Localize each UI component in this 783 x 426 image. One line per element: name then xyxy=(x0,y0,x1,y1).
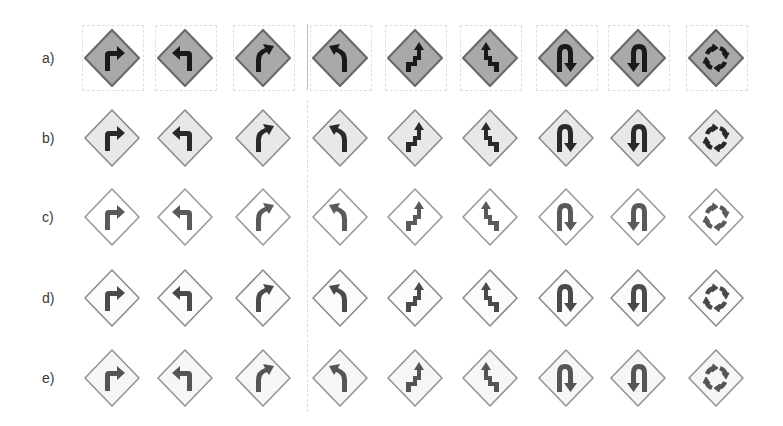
turn-right-arrow-icon xyxy=(81,107,143,169)
u-turn-left-sign xyxy=(607,267,669,329)
u-turn-right-icon xyxy=(535,267,597,329)
roundabout-icon xyxy=(685,267,747,329)
turn-right-arrow-icon xyxy=(81,347,143,409)
row-label: b) xyxy=(42,130,66,146)
column-divider-faint xyxy=(307,100,308,412)
row-label: e) xyxy=(42,370,66,386)
reverse-turn-left-icon xyxy=(459,107,521,169)
reverse-turn-left-icon xyxy=(459,347,521,409)
roundabout-icon xyxy=(685,107,747,169)
turn-left-sign xyxy=(154,186,216,248)
curve-right-sign xyxy=(232,27,294,89)
u-turn-left-icon xyxy=(607,186,669,248)
row-label: a) xyxy=(42,50,66,66)
turn-left-sign xyxy=(154,347,216,409)
u-turn-right-icon xyxy=(535,347,597,409)
reverse-turn-right-sign xyxy=(384,267,446,329)
reverse-turn-right-icon xyxy=(384,27,446,89)
turn-right-sign xyxy=(81,267,143,329)
reverse-turn-left-sign xyxy=(459,107,521,169)
turn-right-sign xyxy=(81,347,143,409)
turn-left-arrow-icon xyxy=(154,267,216,329)
u-turn-right-sign xyxy=(535,347,597,409)
u-turn-left-icon xyxy=(607,107,669,169)
u-turn-left-icon xyxy=(607,267,669,329)
turn-left-arrow-icon xyxy=(154,27,216,89)
u-turn-left-sign xyxy=(607,186,669,248)
reverse-turn-right-sign xyxy=(384,107,446,169)
row-label: d) xyxy=(42,290,66,306)
u-turn-right-icon xyxy=(535,27,597,89)
roundabout-sign xyxy=(685,27,747,89)
turn-right-arrow-icon xyxy=(81,267,143,329)
u-turn-right-sign xyxy=(535,267,597,329)
row-label: c) xyxy=(42,209,66,225)
curve-left-arrow-icon xyxy=(309,267,371,329)
curve-right-arrow-icon xyxy=(232,27,294,89)
turn-right-sign xyxy=(81,107,143,169)
reverse-turn-left-sign xyxy=(459,267,521,329)
curve-left-sign xyxy=(309,347,371,409)
curve-left-arrow-icon xyxy=(309,107,371,169)
roundabout-sign xyxy=(685,107,747,169)
u-turn-left-icon xyxy=(607,347,669,409)
turn-left-sign xyxy=(154,107,216,169)
u-turn-right-icon xyxy=(535,186,597,248)
reverse-turn-right-sign xyxy=(384,186,446,248)
turn-right-arrow-icon xyxy=(81,186,143,248)
reverse-turn-right-icon xyxy=(384,186,446,248)
roundabout-sign xyxy=(685,186,747,248)
reverse-turn-right-icon xyxy=(384,347,446,409)
roundabout-sign xyxy=(685,267,747,329)
curve-right-sign xyxy=(232,107,294,169)
reverse-turn-left-icon xyxy=(459,267,521,329)
turn-left-sign xyxy=(154,267,216,329)
traffic-sign-grid-figure: a)b)c)d)e) xyxy=(0,0,783,426)
roundabout-icon xyxy=(685,27,747,89)
curve-left-sign xyxy=(309,267,371,329)
turn-right-sign xyxy=(81,186,143,248)
reverse-turn-right-icon xyxy=(384,107,446,169)
curve-left-sign xyxy=(309,107,371,169)
u-turn-left-sign xyxy=(607,347,669,409)
curve-left-sign xyxy=(309,27,371,89)
u-turn-left-sign xyxy=(607,107,669,169)
curve-right-arrow-icon xyxy=(232,107,294,169)
u-turn-left-sign xyxy=(607,27,669,89)
reverse-turn-right-icon xyxy=(384,267,446,329)
u-turn-right-sign xyxy=(535,107,597,169)
u-turn-right-sign xyxy=(535,186,597,248)
reverse-turn-right-sign xyxy=(384,347,446,409)
u-turn-left-icon xyxy=(607,27,669,89)
turn-left-arrow-icon xyxy=(154,107,216,169)
curve-right-arrow-icon xyxy=(232,186,294,248)
roundabout-icon xyxy=(685,347,747,409)
roundabout-icon xyxy=(685,186,747,248)
turn-left-arrow-icon xyxy=(154,186,216,248)
roundabout-sign xyxy=(685,347,747,409)
curve-right-sign xyxy=(232,347,294,409)
curve-left-arrow-icon xyxy=(309,27,371,89)
turn-left-sign xyxy=(154,27,216,89)
turn-left-arrow-icon xyxy=(154,347,216,409)
curve-right-sign xyxy=(232,267,294,329)
reverse-turn-left-icon xyxy=(459,27,521,89)
reverse-turn-left-sign xyxy=(459,186,521,248)
u-turn-right-sign xyxy=(535,27,597,89)
turn-right-arrow-icon xyxy=(81,27,143,89)
curve-right-arrow-icon xyxy=(232,267,294,329)
curve-left-arrow-icon xyxy=(309,347,371,409)
u-turn-right-icon xyxy=(535,107,597,169)
curve-right-arrow-icon xyxy=(232,347,294,409)
reverse-turn-left-icon xyxy=(459,186,521,248)
reverse-turn-left-sign xyxy=(459,27,521,89)
curve-left-arrow-icon xyxy=(309,186,371,248)
curve-right-sign xyxy=(232,186,294,248)
turn-right-sign xyxy=(81,27,143,89)
curve-left-sign xyxy=(309,186,371,248)
reverse-turn-right-sign xyxy=(384,27,446,89)
column-divider xyxy=(307,24,308,90)
reverse-turn-left-sign xyxy=(459,347,521,409)
